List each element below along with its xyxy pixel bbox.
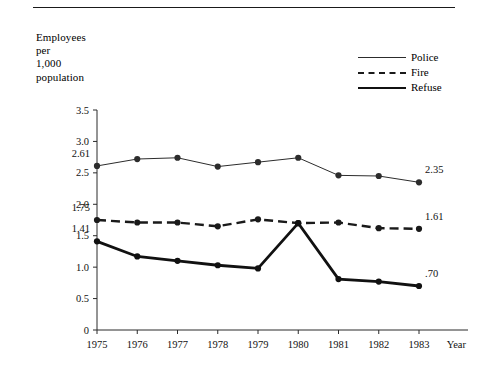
data-point-police[interactable] [335, 172, 341, 178]
y-axis: 00.51.01.52.02.53.03.5 [76, 105, 97, 336]
x-tick-label: 1976 [127, 339, 148, 350]
annotation-last-police: 2.35 [425, 164, 443, 175]
annotation-first-police: 2.61 [72, 148, 90, 159]
data-point-refuse[interactable] [255, 265, 261, 271]
data-point-police[interactable] [295, 155, 301, 161]
y-tick-label: 3.5 [76, 105, 89, 116]
data-point-fire[interactable] [335, 219, 341, 225]
data-point-police[interactable] [255, 159, 261, 165]
x-tick-label: 1983 [409, 339, 430, 350]
data-point-fire[interactable] [94, 217, 100, 223]
value-annotations: 2.612.351.751.611.41.70 [72, 148, 444, 279]
y-tick-label: 3.0 [76, 136, 89, 147]
y-tick-label: 0.5 [76, 293, 89, 304]
x-tick-label: 1978 [207, 339, 228, 350]
x-axis: 197519761977197819791980198119821983Year [87, 330, 469, 350]
data-point-police[interactable] [134, 156, 140, 162]
x-tick-label: 1975 [87, 339, 108, 350]
y-tick-label: 1.0 [76, 262, 89, 273]
data-point-fire[interactable] [255, 216, 261, 222]
data-point-refuse[interactable] [174, 258, 180, 264]
data-point-fire[interactable] [416, 226, 422, 232]
annotation-last-fire: 1.61 [425, 211, 443, 222]
annotation-first-fire: 1.75 [72, 202, 90, 213]
data-point-fire[interactable] [215, 223, 221, 229]
series-line-refuse [97, 223, 419, 286]
x-tick-label: 1977 [167, 339, 188, 350]
data-point-fire[interactable] [174, 219, 180, 225]
y-tick-label: 2.5 [76, 167, 89, 178]
chart-plot-area: 00.51.01.52.02.53.03.5 19751976197719781… [0, 0, 488, 376]
data-point-police[interactable] [215, 163, 221, 169]
data-point-refuse[interactable] [94, 238, 100, 244]
data-point-refuse[interactable] [295, 220, 301, 226]
annotation-first-refuse: 1.41 [72, 223, 90, 234]
x-tick-label: 1981 [328, 339, 349, 350]
data-point-refuse[interactable] [215, 262, 221, 268]
data-point-refuse[interactable] [376, 279, 382, 285]
data-point-police[interactable] [94, 163, 100, 169]
data-point-refuse[interactable] [134, 253, 140, 259]
data-point-police[interactable] [376, 173, 382, 179]
x-tick-label: 1982 [368, 339, 389, 350]
data-point-refuse[interactable] [416, 283, 422, 289]
data-point-police[interactable] [174, 155, 180, 161]
figure-container: Employees per 1,000 population Police Fi… [0, 0, 488, 376]
data-point-fire[interactable] [134, 219, 140, 225]
x-axis-label: Year [447, 339, 467, 350]
data-point-police[interactable] [416, 179, 422, 185]
data-point-refuse[interactable] [335, 276, 341, 282]
data-series-group [94, 155, 422, 289]
annotation-last-refuse: .70 [425, 268, 438, 279]
y-tick-label: 0 [84, 325, 89, 336]
x-tick-label: 1979 [248, 339, 269, 350]
x-tick-label: 1980 [288, 339, 309, 350]
data-point-fire[interactable] [376, 225, 382, 231]
